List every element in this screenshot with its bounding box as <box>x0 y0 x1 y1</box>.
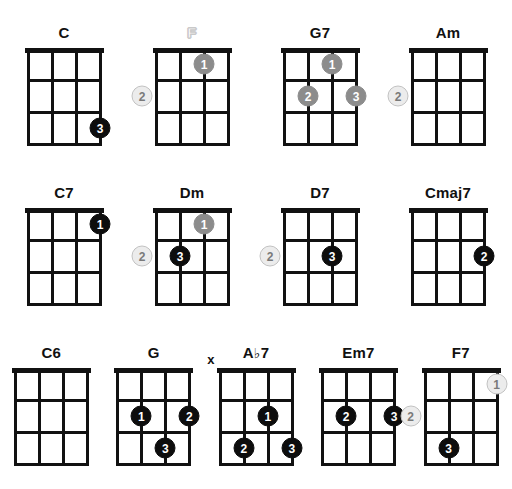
fret-line <box>116 399 191 402</box>
ukulele-chord-chart: C3F12G7123Am2C71Dm123D723Cmaj72C6G123A♭7… <box>0 0 512 489</box>
string-line <box>411 210 414 306</box>
fret-line <box>321 463 396 466</box>
chord-diagram: Em723 <box>307 340 409 489</box>
chord-name: Dm <box>128 184 256 202</box>
string-line <box>355 210 358 306</box>
nut <box>153 208 232 213</box>
string-line <box>472 370 475 466</box>
fret-line <box>321 431 396 434</box>
chord-diagram: C3 <box>0 20 128 180</box>
finger-dot: 3 <box>346 86 367 107</box>
fret-line <box>116 431 191 434</box>
chord-diagram: C6 <box>0 340 102 489</box>
string-line <box>75 210 78 306</box>
nut <box>422 368 501 373</box>
fret-line <box>321 399 396 402</box>
nut <box>409 208 488 213</box>
fret-line <box>283 143 358 146</box>
finger-dot: 1 <box>486 374 507 395</box>
finger-dot: 2 <box>336 406 357 427</box>
fret-line <box>283 271 358 274</box>
finger-dot: 3 <box>322 246 343 267</box>
chord-diagram: Am2 <box>384 20 512 180</box>
nut <box>281 208 360 213</box>
string-line <box>155 50 158 146</box>
string-line <box>435 210 438 306</box>
finger-dot: 2 <box>132 246 153 267</box>
string-line <box>307 210 310 306</box>
string-line <box>283 50 286 146</box>
fret-line <box>424 463 499 466</box>
chord-name: F7 <box>410 344 512 362</box>
string-line <box>411 50 414 146</box>
string-line <box>459 50 462 146</box>
fret-line <box>14 399 89 402</box>
nut <box>12 368 91 373</box>
chord-diagram: G123 <box>102 340 204 489</box>
chord-diagram: F7123 <box>410 340 512 489</box>
string-line <box>435 50 438 146</box>
fret-line <box>155 303 230 306</box>
fret-line <box>155 111 230 114</box>
chord-name: D7 <box>256 184 384 202</box>
fretboard-grid <box>155 48 230 146</box>
fret-line <box>155 271 230 274</box>
fret-line <box>424 431 499 434</box>
chord-name: C7 <box>0 184 128 202</box>
chord-diagram: F12 <box>128 20 256 180</box>
string-line <box>51 50 54 146</box>
fretboard-grid <box>283 208 358 306</box>
nut <box>281 48 360 53</box>
string-line <box>227 50 230 146</box>
chord-name: F <box>128 24 256 42</box>
finger-dot: 2 <box>179 406 200 427</box>
fret-line <box>155 143 230 146</box>
fret-line <box>411 239 486 242</box>
finger-dot: 2 <box>233 438 254 459</box>
fret-line <box>283 111 358 114</box>
finger-dot: 1 <box>194 214 215 235</box>
string-line <box>27 210 30 306</box>
chord-name: A♭7 <box>205 344 307 362</box>
chord-name: Em7 <box>307 344 409 362</box>
flat-symbol: ♭ <box>254 345 261 361</box>
fret-line <box>14 431 89 434</box>
fret-line <box>283 303 358 306</box>
fret-line <box>411 111 486 114</box>
fret-line <box>116 463 191 466</box>
chord-name: Am <box>384 24 512 42</box>
finger-dot: 1 <box>131 406 152 427</box>
chord-row: C3F12G7123Am2 <box>0 20 512 180</box>
fret-line <box>411 271 486 274</box>
finger-dot: 1 <box>90 214 111 235</box>
finger-dot: 2 <box>132 86 153 107</box>
fret-line <box>283 239 358 242</box>
mute-marker-icon: x <box>207 353 214 366</box>
string-line <box>321 370 324 466</box>
string-line <box>75 50 78 146</box>
fretboard-grid <box>411 48 486 146</box>
chord-name: Cmaj7 <box>384 184 512 202</box>
fret-line <box>424 399 499 402</box>
nut <box>217 368 296 373</box>
fret-line <box>155 79 230 82</box>
string-line <box>51 210 54 306</box>
string-line <box>27 50 30 146</box>
fret-line <box>411 143 486 146</box>
fret-line <box>27 271 102 274</box>
finger-dot: 2 <box>388 86 409 107</box>
fret-line <box>219 431 294 434</box>
finger-dot: 3 <box>438 438 459 459</box>
string-line <box>459 210 462 306</box>
fret-line <box>27 303 102 306</box>
nut <box>25 208 104 213</box>
finger-dot: 1 <box>322 54 343 75</box>
fret-line <box>27 79 102 82</box>
chord-diagram: Dm123 <box>128 180 256 340</box>
chord-diagram: C71 <box>0 180 128 340</box>
chord-name: C <box>0 24 128 42</box>
nut <box>25 48 104 53</box>
string-line <box>219 370 222 466</box>
chord-diagram: D723 <box>256 180 384 340</box>
finger-dot: 2 <box>260 246 281 267</box>
